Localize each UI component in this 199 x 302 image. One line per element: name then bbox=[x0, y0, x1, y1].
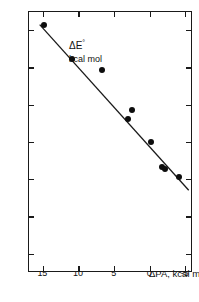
scatter-plot-figure: -15-10-5051015 151050-5 ΔE° kcal mol ΔPA… bbox=[0, 0, 199, 302]
y-axis-title: ΔE° kcal mol bbox=[69, 36, 102, 66]
data-point bbox=[176, 174, 182, 180]
data-point bbox=[99, 67, 105, 73]
y-axis-degree-symbol: ° bbox=[82, 39, 85, 46]
data-point bbox=[129, 107, 135, 113]
data-layer bbox=[29, 12, 191, 271]
plot-frame: ΔE° kcal mol ΔPA, kcal mol-1 bbox=[28, 11, 192, 272]
regression-line bbox=[29, 12, 193, 273]
y-axis-symbol: ΔE bbox=[69, 40, 82, 51]
data-point bbox=[162, 166, 168, 172]
data-point bbox=[125, 116, 131, 122]
data-point bbox=[148, 139, 154, 145]
x-axis-title-main: ΔPA, kcal mol bbox=[149, 268, 199, 279]
data-point bbox=[41, 22, 47, 28]
x-axis-title: ΔPA, kcal mol-1 bbox=[149, 267, 199, 279]
y-axis-unit: kcal mol bbox=[69, 53, 102, 67]
